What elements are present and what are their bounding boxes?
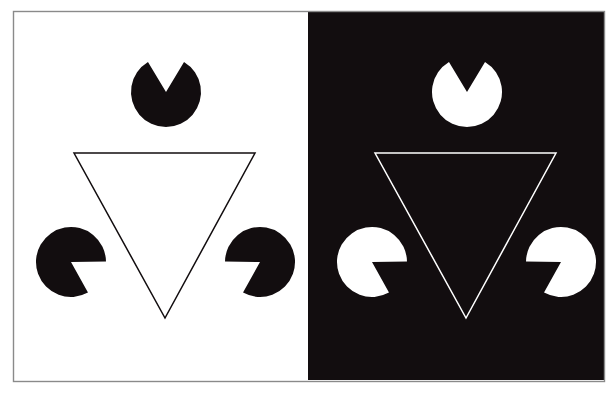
kanizsa-figure: [0, 0, 616, 395]
panel-background: [14, 12, 308, 380]
panel-background: [308, 12, 604, 380]
panel-left-panel: [14, 12, 308, 380]
figure-canvas: [0, 0, 616, 395]
panel-right-panel: [308, 12, 604, 380]
